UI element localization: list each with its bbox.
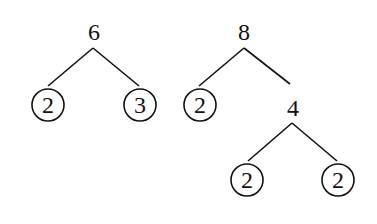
edge-8-4	[244, 48, 290, 84]
edge-8-2	[199, 48, 244, 86]
edge-6-3	[93, 48, 139, 86]
node-8: 8	[238, 19, 250, 45]
node-6: 6	[88, 19, 100, 45]
node-3: 3	[134, 92, 146, 118]
edge-6-2	[48, 48, 93, 86]
edge-4-2-right	[292, 123, 337, 161]
factor-tree-6: 6 2 3	[32, 19, 156, 121]
node-4: 4	[287, 95, 299, 121]
node-2: 2	[42, 92, 54, 118]
node-2: 2	[194, 92, 206, 118]
edge-4-2-left	[248, 123, 292, 161]
factor-tree-diagram: 6 2 3 8 2 4 2 2	[0, 0, 377, 224]
factor-tree-8: 8 2 4 2 2	[184, 19, 354, 196]
node-2: 2	[241, 167, 253, 193]
node-2: 2	[332, 167, 344, 193]
diagram-svg: 6 2 3 8 2 4 2 2	[0, 0, 377, 224]
